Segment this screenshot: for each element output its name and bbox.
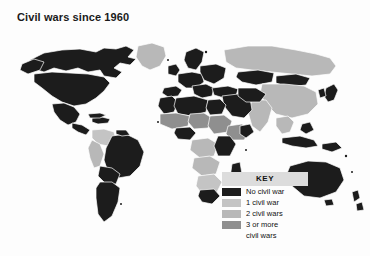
island-dot [351, 171, 353, 173]
map-legend: KEY No civil war 1 civil war 2 civil war… [222, 172, 308, 240]
legend-item-1-civil-war[interactable]: 1 civil war [222, 199, 308, 208]
legend-item-3-or-more-civil-wars[interactable]: 3 or more [222, 221, 308, 230]
region-tasmania [324, 199, 334, 206]
legend-swatch-3 [222, 221, 241, 229]
legend-swatch-0 [222, 188, 241, 196]
page-title: Civil wars since 1960 [17, 11, 129, 23]
island-dot [157, 121, 159, 123]
legend-item-no-civil-war[interactable]: No civil war [222, 188, 308, 197]
island-dot [205, 51, 207, 53]
island-dot [245, 149, 247, 151]
island-dot [167, 59, 169, 61]
island-dot [120, 203, 122, 205]
legend-swatch-1 [222, 199, 241, 207]
legend-item-2-civil-wars[interactable]: 2 civil wars [222, 210, 308, 219]
legend-label-3-continued: civil wars [246, 232, 308, 240]
world-choropleth-map [0, 26, 370, 226]
legend-label-3: 3 or more [246, 221, 278, 229]
legend-label-2: 2 civil wars [246, 210, 283, 218]
legend-label-0: No civil war [246, 188, 284, 196]
island-dot [345, 155, 347, 157]
legend-title: KEY [222, 172, 308, 186]
legend-label-1: 1 civil war [246, 199, 279, 207]
map-figure: Civil wars since 1960 [0, 0, 370, 256]
legend-swatch-2 [222, 210, 241, 218]
